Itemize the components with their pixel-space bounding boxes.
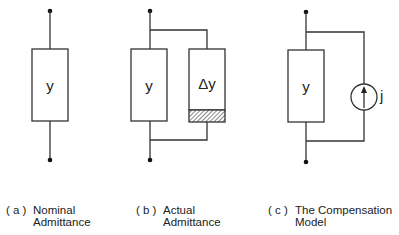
admittance-diagram: y y Δy y j (0, 0, 399, 235)
wire-branch-bottom-b (150, 122, 207, 140)
wire-branch-top-b (150, 30, 207, 49)
caption-a-tag: ( a ) (6, 204, 33, 216)
caption-c-line2: Model (295, 216, 326, 228)
caption-b-line2: Admittance (163, 216, 221, 228)
delta-y-label: Δy (198, 75, 216, 92)
caption-b: ( b )ActualAdmittance (136, 204, 221, 228)
panel-b-actual-admittance: y Δy (131, 9, 225, 163)
caption-b-line1: Actual (163, 204, 195, 216)
caption-c: ( c )The CompensationModel (268, 204, 392, 228)
admittance-y-label-c: y (302, 78, 310, 95)
caption-b-tag: ( b ) (136, 204, 163, 216)
admittance-y-label-b: y (145, 77, 153, 94)
caption-a: ( a )NominalAdmittance (6, 204, 91, 228)
terminal-bottom-a (48, 158, 53, 163)
caption-c-line1: The Compensation (295, 204, 392, 216)
delta-y-hatched-region (189, 110, 225, 122)
admittance-y-label-a: y (46, 77, 54, 94)
caption-c-tag: ( c ) (268, 204, 295, 216)
terminal-bottom-c (304, 160, 309, 165)
panel-a-nominal-admittance: y (32, 9, 68, 163)
terminal-bottom-b (148, 158, 153, 163)
panel-c-compensation-model: y j (288, 10, 383, 165)
caption-a-line2: Admittance (33, 216, 91, 228)
caption-a-line1: Nominal (33, 204, 75, 216)
current-source-label: j (379, 87, 383, 104)
